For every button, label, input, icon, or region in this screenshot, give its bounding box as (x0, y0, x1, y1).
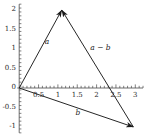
y-tick-label: 2 (12, 6, 16, 13)
vector-label-b: b (76, 109, 81, 117)
y-tick-label: -0.5 (3, 104, 17, 111)
y-tick-label: 0.5 (5, 65, 16, 72)
vector-a (19, 10, 62, 88)
x-tick-label: 2 (94, 92, 98, 99)
x-tick-label: 1 (56, 92, 60, 99)
vector-triangle-plot: 21.510.50-0.5-10.511.522.53 aba − b (0, 0, 149, 138)
y-tick-label: 1.5 (5, 26, 16, 33)
y-tick-label: 1 (12, 45, 16, 52)
x-tick-label: 2.5 (110, 92, 121, 99)
y-tick-label: 0 (12, 84, 16, 91)
vector-a-b (62, 10, 134, 127)
x-tick-label: 3 (133, 92, 137, 99)
x-tick-label: 1.5 (72, 92, 83, 99)
x-tick-label: 0.5 (33, 92, 44, 99)
vector-label-a: a (45, 38, 49, 46)
y-tick-label: -1 (9, 123, 16, 130)
vector-label-a-b: a − b (90, 44, 110, 52)
plot-canvas (0, 0, 149, 138)
